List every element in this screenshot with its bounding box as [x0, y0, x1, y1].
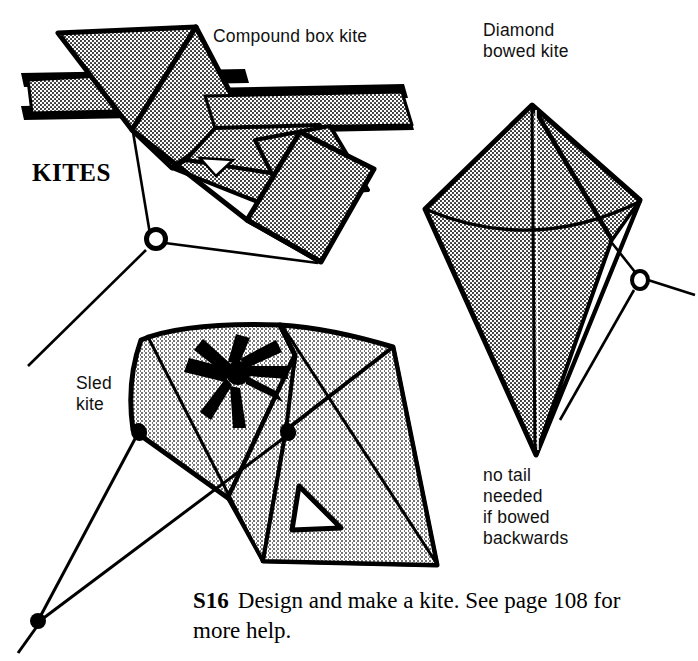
diamond-kite-bridle-ring: [632, 271, 648, 289]
compound-box-kite-figure: [21, 27, 414, 366]
box-kite-panel-right-wing-upper: [205, 92, 412, 128]
page-title: KITES: [32, 159, 111, 187]
box-kite-bridle-ring: [147, 230, 166, 249]
sled-kite-bridle-knot: [30, 613, 46, 629]
label-compound-box-kite: Compound box kite: [213, 26, 367, 47]
caption: S16Design and make a kite. See page 108 …: [193, 586, 673, 646]
illustration-page: Compound box kite Diamond bowed kite Sle…: [0, 0, 698, 661]
label-diamond-bowed-kite: Diamond bowed kite: [483, 20, 569, 62]
label-sled-kite: Sled kite: [76, 373, 112, 415]
kites-illustration: [0, 0, 698, 661]
diamond-bowed-kite-figure: [425, 105, 695, 455]
label-no-tail-note: no tail needed if bowed backwards: [483, 465, 568, 549]
caption-text: Design and make a kite. See page 108 for…: [193, 588, 620, 643]
caption-tag: S16: [193, 588, 229, 613]
